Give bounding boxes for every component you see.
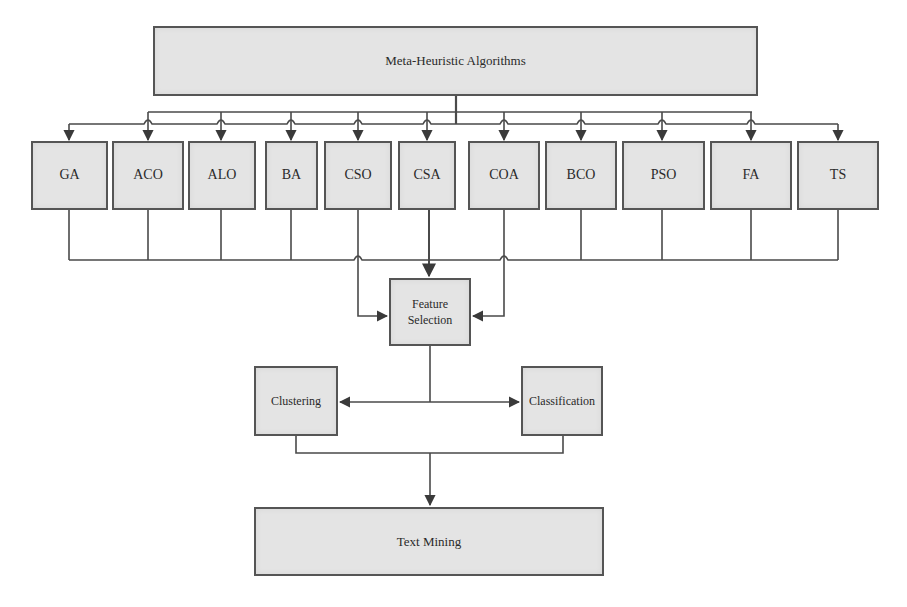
clustering-label: Clustering bbox=[271, 393, 321, 409]
text-mining-label: Text Mining bbox=[397, 533, 461, 551]
algorithm-node-pso: PSO bbox=[622, 141, 705, 210]
root-node-meta-heuristic-algorithms: Meta-Heuristic Algorithms bbox=[153, 26, 758, 96]
algorithm-node-fa: FA bbox=[710, 141, 792, 210]
arrow-cso-to-feature-selection bbox=[358, 210, 387, 316]
algorithm-label: FA bbox=[743, 166, 760, 185]
algorithm-label: BA bbox=[282, 166, 301, 185]
algorithm-node-csa: CSA bbox=[398, 141, 456, 210]
algorithm-node-aco: ACO bbox=[112, 141, 184, 210]
algorithm-node-alo: ALO bbox=[188, 141, 256, 210]
algorithm-label: BCO bbox=[567, 166, 596, 185]
algorithm-label: CSA bbox=[413, 166, 440, 185]
root-label: Meta-Heuristic Algorithms bbox=[385, 52, 525, 70]
classification-node: Classification bbox=[521, 366, 603, 436]
clustering-node: Clustering bbox=[254, 366, 338, 436]
algorithm-label: TS bbox=[830, 166, 846, 185]
algorithm-label: CSO bbox=[344, 166, 371, 185]
feature-selection-line-2: Selection bbox=[408, 312, 453, 328]
algorithm-node-cso: CSO bbox=[324, 141, 392, 210]
algorithm-node-coa: COA bbox=[468, 141, 540, 210]
algorithm-label: ACO bbox=[133, 166, 163, 185]
lower-bus bbox=[69, 120, 838, 124]
algorithm-node-bco: BCO bbox=[545, 141, 617, 210]
feature-selection-node: Feature Selection bbox=[389, 278, 471, 346]
algorithm-node-ba: BA bbox=[265, 141, 318, 210]
algorithm-label: GA bbox=[59, 166, 79, 185]
feature-selection-line-1: Feature bbox=[412, 296, 448, 312]
text-mining-node: Text Mining bbox=[254, 507, 604, 576]
classification-label: Classification bbox=[529, 393, 595, 409]
algorithm-node-ts: TS bbox=[797, 141, 879, 210]
arrow-coa-to-feature-selection bbox=[473, 210, 504, 316]
algorithm-node-ga: GA bbox=[31, 141, 108, 210]
algorithm-label: COA bbox=[489, 166, 519, 185]
algorithm-label: ALO bbox=[208, 166, 237, 185]
bottom-bus bbox=[69, 256, 838, 260]
algorithm-label: PSO bbox=[651, 166, 677, 185]
